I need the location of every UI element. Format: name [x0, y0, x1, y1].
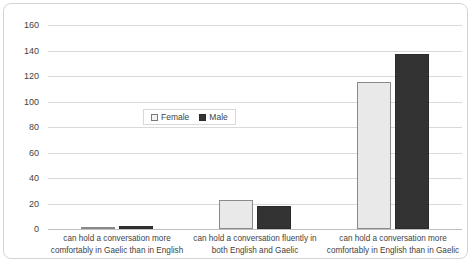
legend-entry-female[interactable]: Female	[151, 112, 189, 122]
plot-area	[48, 25, 462, 229]
y-axis-tick-label: 140	[24, 46, 39, 56]
bar-male-cat1	[119, 226, 153, 229]
y-axis-tick-label: 80	[29, 122, 39, 132]
y-axis-tick-labels: 160140120100806040200	[4, 25, 44, 229]
chart-frame: Number of respondents 160140120100806040…	[3, 3, 468, 259]
bar-male-cat2	[257, 206, 291, 229]
bar-female-cat2	[219, 200, 253, 229]
axis-baseline	[48, 229, 462, 230]
male-swatch-icon	[199, 114, 206, 121]
chart-legend: FemaleMale	[143, 109, 236, 125]
female-swatch-icon	[151, 114, 158, 121]
y-axis-tick-label: 0	[34, 224, 39, 234]
bars-layer	[48, 25, 462, 229]
y-axis-tick-label: 60	[29, 148, 39, 158]
legend-label: Female	[161, 112, 189, 122]
y-axis-tick-label: 20	[29, 199, 39, 209]
bar-female-cat1	[81, 227, 115, 229]
y-axis-tick-label: 120	[24, 71, 39, 81]
legend-entry-male[interactable]: Male	[199, 112, 227, 122]
legend-label: Male	[209, 112, 227, 122]
category-label-2: can hold a conversation fluently in both…	[186, 233, 324, 263]
bar-male-cat3	[395, 54, 429, 229]
bar-female-cat3	[357, 82, 391, 229]
y-axis-tick-label: 160	[24, 20, 39, 30]
y-axis-tick-label: 100	[24, 97, 39, 107]
x-axis-category-labels: can hold a conversation more comfortably…	[48, 233, 462, 263]
category-label-1: can hold a conversation more comfortably…	[48, 233, 186, 263]
y-axis-tick-label: 40	[29, 173, 39, 183]
category-label-3: can hold a conversation more comfortably…	[324, 233, 462, 263]
